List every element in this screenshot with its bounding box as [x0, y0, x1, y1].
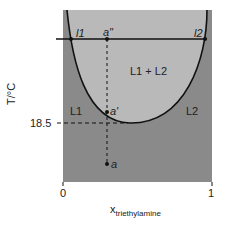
label-l1-region: L1 — [70, 106, 82, 117]
point-a — [105, 162, 109, 166]
y-axis-label: T/°C — [6, 83, 17, 105]
label-l1: l1 — [76, 28, 85, 39]
label-a: a — [111, 159, 117, 170]
point-l2 — [203, 37, 207, 41]
label-two-phase: L1 + L2 — [130, 66, 167, 77]
y-tick-18-5: 18.5 — [30, 118, 51, 129]
label-a-prime: a' — [110, 106, 118, 117]
label-a-double-prime: a" — [103, 27, 113, 38]
point-l1 — [69, 37, 73, 41]
label-l2: l2 — [194, 28, 203, 39]
x-tick-label-1: 1 — [208, 188, 214, 199]
x-axis-label: xtriethylamine — [110, 204, 161, 219]
label-l2-region: L2 — [186, 106, 198, 117]
x-axis-label-sub: triethylamine — [116, 209, 161, 218]
point-a-prime — [105, 110, 109, 114]
x-tick-label-0: 0 — [60, 188, 66, 199]
